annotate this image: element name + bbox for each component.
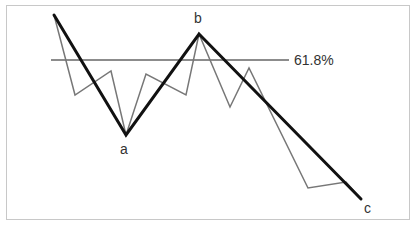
point-label-c: c xyxy=(364,201,371,215)
wave-diagram xyxy=(0,0,418,228)
retracement-label: 61.8% xyxy=(294,53,334,67)
point-label-a: a xyxy=(120,142,128,156)
abc-wave-thick xyxy=(54,15,361,199)
point-label-b: b xyxy=(194,11,202,25)
